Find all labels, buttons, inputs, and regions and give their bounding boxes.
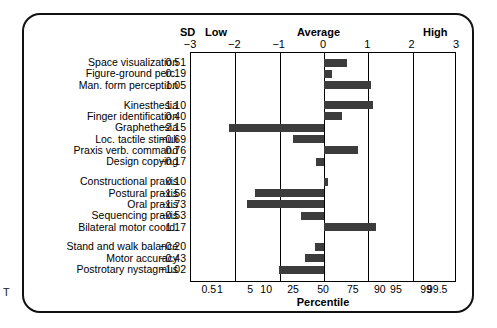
bar-8 xyxy=(316,158,324,166)
row-sd-value-3: 1.10 xyxy=(152,100,186,111)
row-sd-value-16: −1.02 xyxy=(152,264,186,275)
header-sd: SD xyxy=(180,26,195,38)
bar-4 xyxy=(324,112,342,120)
row-sd-value-13: 1.17 xyxy=(152,222,186,233)
percentile-tick-6: 75 xyxy=(338,283,368,296)
bar-5 xyxy=(229,124,324,132)
sd-tick-6: 3 xyxy=(443,38,469,51)
bar-7 xyxy=(324,146,358,154)
header-high: High xyxy=(423,26,447,38)
sd-tick-5: 2 xyxy=(399,38,425,51)
row-sd-value-12: −0.53 xyxy=(152,210,186,221)
bar-0 xyxy=(324,59,347,67)
percentile-axis-bottom: 0.5151025507590959999.5 xyxy=(190,283,456,296)
row-sd-value-5: −2.15 xyxy=(152,122,186,133)
row-sd-value-14: −0.20 xyxy=(152,241,186,252)
gridline-sd-5 xyxy=(413,53,414,281)
bar-6 xyxy=(293,135,324,143)
row-sd-value-10: −1.56 xyxy=(152,188,186,199)
row-sd-value-4: 0.40 xyxy=(152,111,186,122)
gridline-sd-2 xyxy=(280,53,281,281)
bar-12 xyxy=(301,212,324,220)
percentile-axis-title: Percentile xyxy=(190,296,456,308)
row-sd-value-9: 0.10 xyxy=(152,176,186,187)
sd-tick-2: −1 xyxy=(266,38,292,51)
chart-plot-area xyxy=(190,52,456,282)
sd-tick-3: 0 xyxy=(310,38,336,51)
row-sd-value-8: −0.17 xyxy=(152,156,186,167)
bar-10 xyxy=(255,189,324,197)
row-sd-value-15: −0.43 xyxy=(152,253,186,264)
row-sd-value-7: 0.76 xyxy=(152,145,186,156)
percentile-tick-1: 1 xyxy=(205,283,235,296)
row-sd-value-1: 0.19 xyxy=(152,68,186,79)
bar-15 xyxy=(305,254,324,262)
percentile-tick-8: 95 xyxy=(381,283,411,296)
bar-9 xyxy=(324,178,328,186)
sd-tick-0: −3 xyxy=(177,38,203,51)
percentile-tick-3: 10 xyxy=(251,283,281,296)
gridline-sd-1 xyxy=(235,53,236,281)
sd-axis-top: −3−2−10123 xyxy=(190,38,456,51)
percentile-tick-4: 25 xyxy=(278,283,308,296)
row-sd-value-2: 1.05 xyxy=(152,80,186,91)
bar-1 xyxy=(324,70,332,78)
bar-14 xyxy=(315,243,324,251)
sd-tick-4: 1 xyxy=(354,38,380,51)
header-average: Average xyxy=(297,26,340,38)
sd-tick-1: −2 xyxy=(221,38,247,51)
percentile-tick-10: 99.5 xyxy=(422,283,452,296)
percentile-tick-5: 50 xyxy=(308,283,338,296)
row-sd-value-11: −1.73 xyxy=(152,199,186,210)
bar-2 xyxy=(324,81,371,89)
bar-13 xyxy=(324,223,376,231)
bar-11 xyxy=(247,200,324,208)
header-low: Low xyxy=(205,26,227,38)
scan-artifact: T xyxy=(3,287,10,298)
bar-16 xyxy=(279,266,324,274)
row-sd-value-0: 0.51 xyxy=(152,57,186,68)
bar-3 xyxy=(324,101,373,109)
row-sd-value-6: −0.69 xyxy=(152,134,186,145)
